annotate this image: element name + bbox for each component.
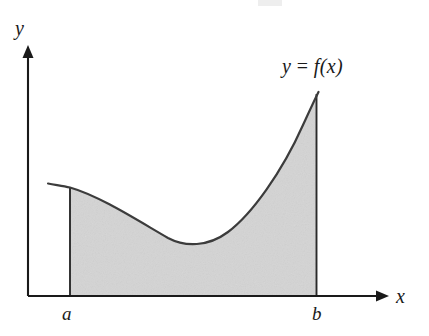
x-axis-arrowhead: [376, 291, 389, 302]
shaded-area-texture-overlay: [70, 94, 317, 296]
curve-label-rhs: f(x): [314, 55, 343, 77]
curve-label-equals: =: [291, 55, 313, 77]
diagram-canvas: [0, 0, 429, 336]
tick-label-a: a: [62, 304, 72, 323]
y-axis-label: y: [15, 18, 24, 38]
x-axis-label: x: [396, 286, 405, 306]
curve-equation-label: y = f(x): [282, 56, 343, 76]
y-axis-arrowhead: [23, 45, 34, 58]
figure-area-under-curve: y x a b y = f(x): [0, 0, 429, 336]
curve-label-lhs: y: [282, 55, 291, 77]
tick-label-b: b: [312, 304, 322, 323]
